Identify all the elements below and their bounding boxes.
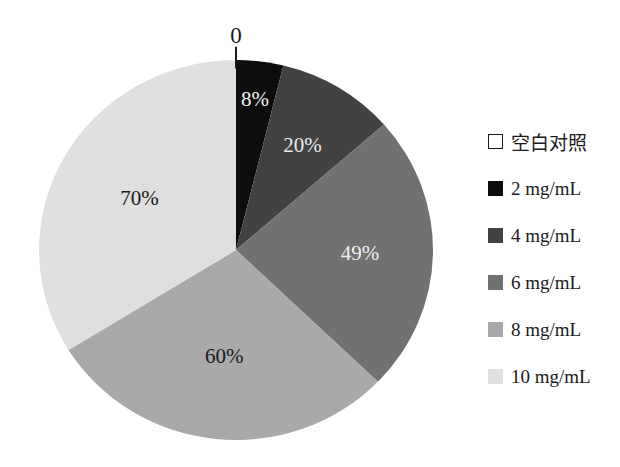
slice-label-5: 70% [120, 186, 159, 210]
legend-label: 10 mg/mL [511, 366, 591, 388]
legend-swatch [488, 181, 503, 196]
legend: 空白对照 2 mg/mL 4 mg/mL 6 mg/mL 8 mg/mL 10 … [488, 118, 591, 400]
legend-swatch [488, 369, 503, 384]
legend-swatch [488, 275, 503, 290]
legend-item: 4 mg/mL [488, 212, 591, 259]
legend-item: 8 mg/mL [488, 306, 591, 353]
slice-label-1: 8% [241, 87, 269, 111]
legend-item: 2 mg/mL [488, 165, 591, 212]
zero-slice-label: 0 [230, 23, 242, 48]
chart-page: 0 8%20%49%60%70% 空白对照 2 mg/mL 4 mg/mL 6 … [0, 0, 620, 467]
legend-swatch [488, 134, 503, 149]
slice-label-3: 49% [341, 241, 380, 265]
slice-label-2: 20% [283, 133, 322, 157]
slice-label-4: 60% [205, 344, 244, 368]
legend-label: 空白对照 [511, 128, 587, 155]
legend-label: 6 mg/mL [511, 272, 581, 294]
legend-label: 4 mg/mL [511, 225, 581, 247]
legend-item: 6 mg/mL [488, 259, 591, 306]
legend-swatch [488, 322, 503, 337]
legend-item: 空白对照 [488, 118, 591, 165]
legend-label: 2 mg/mL [511, 178, 581, 200]
legend-item: 10 mg/mL [488, 353, 591, 400]
legend-swatch [488, 228, 503, 243]
legend-label: 8 mg/mL [511, 319, 581, 341]
